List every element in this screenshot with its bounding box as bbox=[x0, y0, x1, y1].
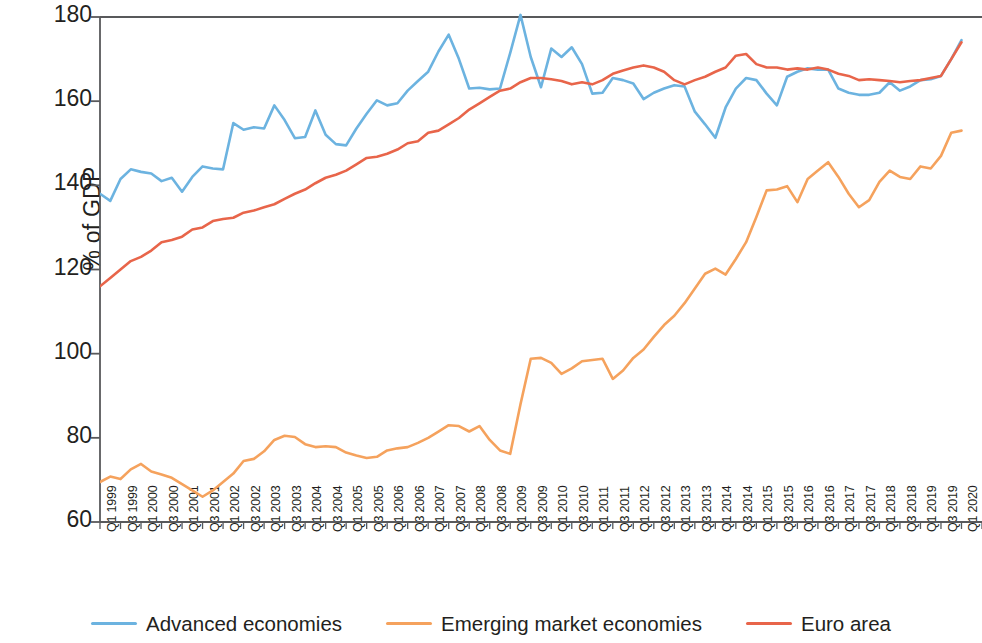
legend-item-advanced-economies[interactable]: Advanced economies bbox=[91, 612, 342, 636]
legend-swatch-line-icon bbox=[386, 622, 432, 626]
data-series bbox=[100, 15, 961, 497]
legend-item-emerging-market-economies[interactable]: Emerging market economies bbox=[386, 612, 702, 636]
legend-label: Euro area bbox=[801, 612, 891, 636]
chart-figure: % of GDP 1801601401201008060 Q1 1999Q3 1… bbox=[0, 0, 982, 643]
legend-swatch-line-icon bbox=[746, 622, 792, 626]
legend-swatch-line-icon bbox=[91, 622, 137, 626]
legend-label: Emerging market economies bbox=[441, 612, 702, 636]
legend-item-euro-area[interactable]: Euro area bbox=[746, 612, 891, 636]
plot-area bbox=[0, 0, 982, 643]
legend-label: Advanced economies bbox=[146, 612, 342, 636]
series-line-emerging-market-economies bbox=[100, 131, 961, 497]
series-line-advanced-economies bbox=[100, 15, 961, 201]
chart-legend: Advanced economiesEmerging market econom… bbox=[0, 604, 982, 643]
